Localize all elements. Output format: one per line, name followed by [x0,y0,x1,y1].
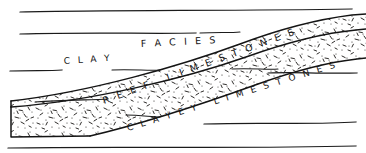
leader-line-clay [112,70,160,71]
bedding-line-clay-bed [10,70,62,71]
cross-section-drawing: F A C I E S C L A Y R E E F L I M E S T … [0,0,366,153]
leader-line-reef-right [232,69,278,70]
bedding-line-top [20,9,352,12]
geological-cross-section-figure: F A C I E S C L A Y R E E F L I M E S T … [0,0,366,153]
bedding-line-lower-right [204,122,356,124]
label-clay: C L A Y [63,53,112,66]
bedding-line-bottom [8,146,356,148]
bedding-line-second [20,33,196,34]
leader-line-facies [200,32,240,33]
label-facies: F A C I E S [141,34,219,49]
